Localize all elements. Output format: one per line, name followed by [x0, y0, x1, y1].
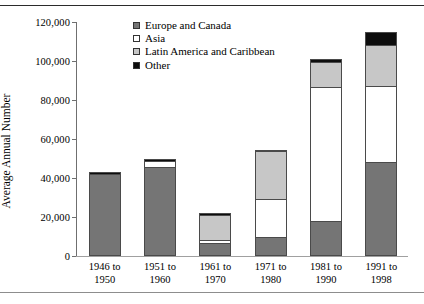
x-axis-category-label: 1991 to1998	[349, 260, 413, 286]
bar-segment[interactable]	[366, 33, 396, 47]
bar-segment[interactable]	[311, 222, 341, 255]
bar-segment[interactable]	[90, 175, 120, 255]
bar-segment[interactable]	[366, 87, 396, 163]
y-axis-tick	[72, 178, 76, 179]
y-axis-tick-label: 120,000	[35, 17, 70, 28]
x-axis-labels: 1946 to19501951 to19601961 to19701971 to…	[77, 260, 409, 296]
legend-item[interactable]: Asia	[133, 32, 275, 45]
y-axis-tick	[72, 100, 76, 101]
y-axis-tick-label: 0	[65, 251, 70, 262]
y-axis-title: Average Annual Number	[0, 56, 14, 246]
y-axis-tick	[72, 256, 76, 257]
top-divider-rule	[0, 5, 424, 6]
y-axis-tick	[72, 61, 76, 62]
chart-page: Average Annual Number 020,00040,00060,00…	[0, 0, 424, 304]
legend-item-label: Other	[145, 59, 170, 72]
legend-item[interactable]: Europe and Canada	[133, 19, 275, 32]
y-axis-tick	[72, 22, 76, 23]
bar-segment[interactable]	[366, 46, 396, 87]
bar-segment[interactable]	[200, 216, 230, 241]
x-label-line1: 1951 to	[144, 261, 176, 272]
legend-item-label: Europe and Canada	[145, 19, 231, 32]
bar-segment[interactable]	[311, 88, 341, 222]
chart-legend: Europe and CanadaAsiaLatin America and C…	[133, 19, 275, 72]
y-axis-tick-label: 20,000	[41, 212, 70, 223]
x-label-line1: 1946 to	[89, 261, 121, 272]
legend-swatch-icon	[133, 22, 140, 29]
stacked-bar[interactable]	[255, 150, 287, 256]
bar-segment[interactable]	[311, 63, 341, 88]
legend-item-label: Latin America and Caribbean	[145, 45, 275, 58]
stacked-bar[interactable]	[144, 159, 176, 256]
bar-segment[interactable]	[256, 152, 286, 200]
x-label-line1: 1991 to	[365, 261, 397, 272]
y-axis-tick-label: 60,000	[41, 134, 70, 145]
y-axis-tick	[72, 139, 76, 140]
legend-swatch-icon	[133, 35, 140, 42]
y-axis-tick-label: 100,000	[35, 56, 70, 67]
bar-segment[interactable]	[200, 244, 230, 255]
bar-segment[interactable]	[366, 163, 396, 255]
x-label-line2: 1998	[349, 273, 413, 286]
bar-group	[298, 22, 353, 256]
bar-segment[interactable]	[256, 200, 286, 239]
legend-item[interactable]: Other	[133, 59, 275, 72]
x-label-line1: 1961 to	[199, 261, 231, 272]
legend-swatch-icon	[133, 48, 140, 55]
x-axis-line	[76, 256, 408, 257]
legend-item[interactable]: Latin America and Caribbean	[133, 45, 275, 58]
stacked-bar[interactable]	[89, 172, 121, 256]
y-axis-tick-label: 80,000	[41, 95, 70, 106]
stacked-bar[interactable]	[365, 32, 397, 256]
y-axis-tick-label: 40,000	[41, 173, 70, 184]
y-axis-tick	[72, 217, 76, 218]
legend-item-label: Asia	[145, 32, 165, 45]
legend-swatch-icon	[133, 62, 140, 69]
bar-group	[354, 22, 409, 256]
bar-segment[interactable]	[145, 168, 175, 255]
bar-segment[interactable]	[256, 238, 286, 255]
y-axis-title-text: Average Annual Number	[0, 94, 12, 209]
x-label-line1: 1981 to	[310, 261, 342, 272]
x-label-line1: 1971 to	[255, 261, 287, 272]
stacked-bar[interactable]	[310, 59, 342, 256]
stacked-bar[interactable]	[199, 213, 231, 256]
bar-group	[77, 22, 132, 256]
